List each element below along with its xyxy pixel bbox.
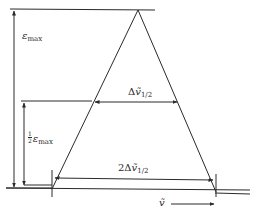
x-axis-label: ṽ: [159, 198, 165, 208]
one-half-fraction: 12: [28, 131, 32, 144]
baseline-lower: [215, 193, 250, 194]
two-delta-symbol: 2Δ: [118, 162, 132, 173]
base-width-label: 2Δṽ1/2: [118, 163, 149, 175]
half-sub: 1/2: [137, 167, 148, 175]
fraction-denominator: 2: [28, 138, 32, 144]
half-epsilon-max-label: 12εmax: [28, 131, 53, 146]
base-width-arrow: [55, 178, 213, 180]
epsilon-max-line: [10, 9, 155, 10]
epsilon-sub: max: [38, 138, 53, 146]
half-width-label: Δṽ1/2: [128, 87, 152, 99]
epsilon-sub: max: [27, 35, 42, 43]
triangle-band-diagram: εmax 12εmax Δṽ1/2 2Δṽ1/2 ṽ: [0, 0, 255, 210]
epsilon-max-label: εmax: [22, 31, 42, 43]
half-sub: 1/2: [141, 91, 152, 99]
triangle-right-side: [138, 10, 216, 192]
